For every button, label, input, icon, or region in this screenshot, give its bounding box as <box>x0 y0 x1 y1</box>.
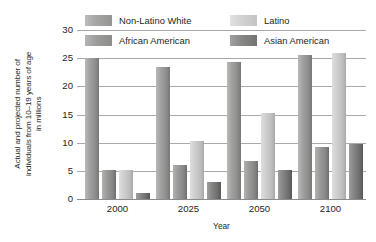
gridline <box>77 86 366 87</box>
x-axis-tick-label: 2000 <box>88 203 148 214</box>
bar-african-american-2000 <box>102 170 116 199</box>
gridline <box>77 115 366 116</box>
axis-baseline <box>77 199 366 200</box>
x-axis-tick-label: 2025 <box>159 203 219 214</box>
bar-african-american-2100 <box>315 147 329 199</box>
legend-swatch-icon <box>230 15 257 26</box>
bar-asian-american-2000 <box>136 193 150 199</box>
y-axis-tick-label: 0 <box>52 194 73 204</box>
x-axis-tick-label: 2050 <box>230 203 290 214</box>
plot-area <box>77 30 366 199</box>
legend-swatch-icon <box>85 35 112 46</box>
bar-asian-american-2100 <box>349 144 363 199</box>
y-axis-tick-label: 10 <box>52 138 73 148</box>
y-axis-tick-label: 30 <box>52 25 73 35</box>
legend-item-african-american: African American <box>85 33 190 47</box>
legend-item-latino: Latino <box>230 13 290 27</box>
y-axis-tick-label: 5 <box>52 166 73 176</box>
x-axis-title: Year <box>77 221 366 231</box>
legend-item-asian-american: Asian American <box>230 33 329 47</box>
y-axis-tick-labels: 302520151050 <box>52 30 73 199</box>
legend-item-non-latino-white: Non-Latino White <box>85 13 191 27</box>
legend-label: Non-Latino White <box>119 15 191 26</box>
bar-african-american-2050 <box>244 161 258 199</box>
bar-latino-2000 <box>119 170 133 199</box>
bar-non-latino-white-2100 <box>298 55 312 199</box>
bar-latino-2100 <box>332 53 346 199</box>
bar-african-american-2025 <box>173 165 187 199</box>
y-axis-tick-label: 15 <box>52 110 73 120</box>
bar-non-latino-white-2025 <box>156 67 170 199</box>
y-axis-tick-label: 20 <box>52 81 73 91</box>
legend-swatch-icon <box>230 35 257 46</box>
legend-label: African American <box>119 35 190 46</box>
legend-label: Asian American <box>264 35 329 46</box>
legend-swatch-icon <box>85 15 112 26</box>
bar-asian-american-2050 <box>278 170 292 199</box>
x-axis-tick-labels: 2000202520502100 <box>77 203 366 217</box>
bar-chart-figure: Actual and projected number of individua… <box>0 0 376 242</box>
bar-asian-american-2025 <box>207 182 221 199</box>
bar-non-latino-white-2000 <box>85 58 99 199</box>
bar-latino-2050 <box>261 113 275 199</box>
y-axis-title: Actual and projected number of individua… <box>13 19 45 209</box>
y-axis-tick-label: 25 <box>52 53 73 63</box>
x-axis-tick-label: 2100 <box>301 203 361 214</box>
chart-legend: Non-Latino White Latino African American… <box>85 13 370 51</box>
gridline <box>77 58 366 59</box>
bar-latino-2025 <box>190 141 204 199</box>
gridline <box>77 143 366 144</box>
legend-label: Latino <box>264 15 290 26</box>
bar-non-latino-white-2050 <box>227 62 241 199</box>
